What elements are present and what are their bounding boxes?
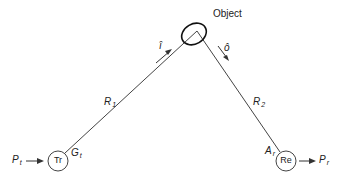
incident-vector-label: î [159,40,162,51]
range-r1-label: R1 [104,96,116,108]
path-r2-line [197,31,280,152]
outgoing-arrowhead-icon [223,55,229,61]
path-r1-line [65,31,197,153]
transmitter-label: Tr [51,155,65,165]
object-label: Object [213,8,242,19]
receive-power-label: Pr [319,154,329,166]
transmit-power-label: Pt [12,154,22,166]
range-r2-label: R2 [253,96,265,108]
pt-arrowhead-icon [37,158,44,164]
bistatic-radar-diagram [0,0,347,181]
pr-arrowhead-icon [309,158,316,164]
outgoing-vector-label: ô [224,42,230,53]
receiver-label: Re [279,155,293,165]
receiver-aperture-label: Ar [265,145,275,157]
transmitter-gain-label: Gt [71,147,82,159]
